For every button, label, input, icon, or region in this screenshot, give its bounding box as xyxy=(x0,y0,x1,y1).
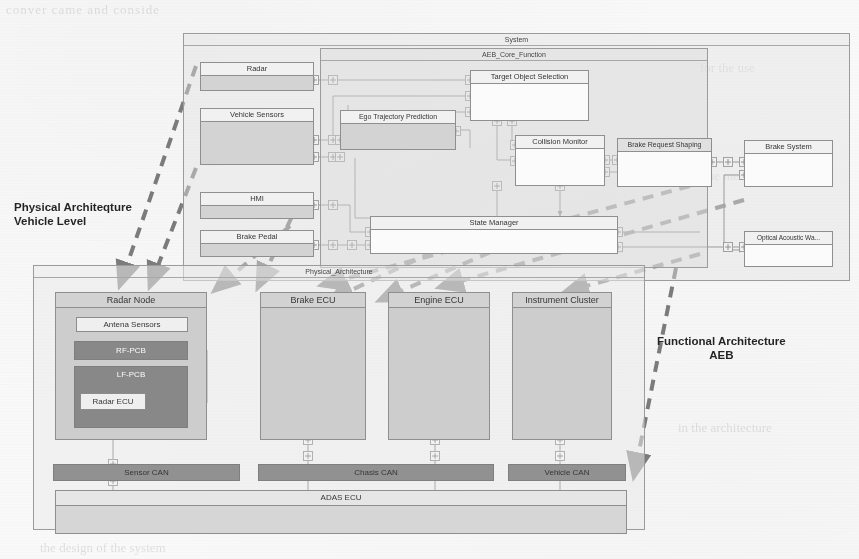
block-brake-request-shaping-body xyxy=(618,152,711,186)
node-engine-ecu-label: Engine ECU xyxy=(389,293,489,308)
callout-functional-line2: AEB xyxy=(657,348,786,362)
block-optical-acoustic-warning-body xyxy=(745,245,832,266)
block-target-object-selection-label: Target Object Selection xyxy=(471,71,588,84)
block-collision-monitor-label: Collision Monitor xyxy=(516,136,604,149)
block-state-manager-label: State Manager xyxy=(371,217,617,230)
block-hmi-body xyxy=(201,206,313,218)
block-brake-request-shaping[interactable]: Brake Request Shaping xyxy=(617,138,712,187)
block-vehicle-sensors[interactable]: Vehicle Sensors xyxy=(200,108,314,165)
block-brake-pedal-label: Brake Pedal xyxy=(201,231,313,244)
node-instrument-cluster-label: Instrument Cluster xyxy=(513,293,611,308)
block-state-manager[interactable]: State Manager xyxy=(370,216,618,254)
callout-physical-line1: Physical Architeqture xyxy=(14,201,132,213)
node-instrument-cluster[interactable]: Instrument Cluster xyxy=(512,292,612,440)
block-ego-trajectory-prediction[interactable]: Ego Trajectory Prediction xyxy=(340,110,456,150)
block-target-object-selection[interactable]: Target Object Selection xyxy=(470,70,589,121)
block-brake-pedal[interactable]: Brake Pedal xyxy=(200,230,314,257)
node-instrument-cluster-body xyxy=(513,308,611,439)
block-vehicle-sensors-body xyxy=(201,122,313,164)
block-optical-acoustic-warning-label: Optical Acoustic Wa... xyxy=(745,232,832,245)
block-radar[interactable]: Radar xyxy=(200,62,314,91)
block-brake-pedal-body xyxy=(201,244,313,256)
bus-chasis-can[interactable]: Chasis CAN xyxy=(258,464,494,481)
part-antena-sensors[interactable]: Antena Sensors xyxy=(76,317,188,332)
node-radar-node-label: Radar Node xyxy=(56,293,206,308)
bus-vehicle-can[interactable]: Vehicle CAN xyxy=(508,464,626,481)
part-rf-pcb[interactable]: RF-PCB xyxy=(74,341,188,360)
block-hmi[interactable]: HMI xyxy=(200,192,314,219)
block-state-manager-body xyxy=(371,230,617,253)
block-radar-label: Radar xyxy=(201,63,313,76)
aeb-core-function-label: AEB_Core_Function xyxy=(321,49,707,61)
block-vehicle-sensors-label: Vehicle Sensors xyxy=(201,109,313,122)
node-engine-ecu-body xyxy=(389,308,489,439)
bus-sensor-can[interactable]: Sensor CAN xyxy=(53,464,240,481)
block-hmi-label: HMI xyxy=(201,193,313,206)
block-optical-acoustic-warning[interactable]: Optical Acoustic Wa... xyxy=(744,231,833,267)
callout-physical-line2: Vehicle Level xyxy=(14,214,132,228)
node-adas-ecu-label: ADAS ECU xyxy=(56,491,626,506)
node-adas-ecu[interactable]: ADAS ECU xyxy=(55,490,627,534)
part-radar-ecu[interactable]: Radar ECU xyxy=(80,393,146,410)
physical-architecture-label: Physical_Architecture xyxy=(34,266,644,278)
block-brake-request-shaping-label: Brake Request Shaping xyxy=(618,139,711,152)
node-brake-ecu[interactable]: Brake ECU xyxy=(260,292,366,440)
callout-functional-line1: Functional Architecture xyxy=(657,335,786,347)
block-ego-trajectory-prediction-body xyxy=(341,124,455,149)
callout-physical-architecture: Physical Architeqture Vehicle Level xyxy=(14,200,132,228)
block-radar-body xyxy=(201,76,313,90)
block-ego-trajectory-prediction-label: Ego Trajectory Prediction xyxy=(341,111,455,124)
system-package-label: System xyxy=(184,34,849,46)
block-target-object-selection-body xyxy=(471,84,588,120)
callout-functional-architecture: Functional Architecture AEB xyxy=(657,334,786,362)
block-collision-monitor[interactable]: Collision Monitor xyxy=(515,135,605,186)
block-brake-system-label: Brake System xyxy=(745,141,832,154)
block-collision-monitor-body xyxy=(516,149,604,185)
node-engine-ecu[interactable]: Engine ECU xyxy=(388,292,490,440)
block-brake-system[interactable]: Brake System xyxy=(744,140,833,187)
block-brake-system-body xyxy=(745,154,832,186)
node-brake-ecu-body xyxy=(261,308,365,439)
node-brake-ecu-label: Brake ECU xyxy=(261,293,365,308)
